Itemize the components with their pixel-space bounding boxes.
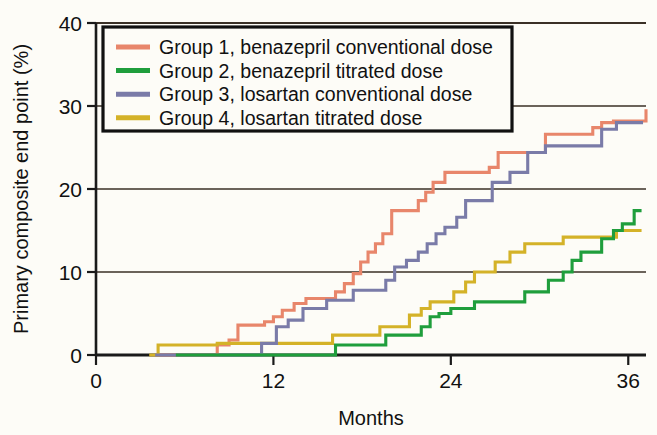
legend-label-group-2: Group 2, benazepril titrated dose <box>159 60 443 82</box>
legend-label-group-1: Group 1, benazepril conventional dose <box>159 36 493 58</box>
y-axis <box>87 23 96 355</box>
y-tick-label-30: 30 <box>59 95 82 118</box>
y-axis-title: Primary composite end point (%) <box>10 44 32 334</box>
x-tick-label-0: 0 <box>90 369 102 392</box>
y-tick-label-20: 20 <box>59 178 82 201</box>
x-tick-label-24: 24 <box>439 369 463 392</box>
data-series-group <box>149 109 646 355</box>
series-line-group-2 <box>176 211 642 355</box>
x-tick-label-36: 36 <box>617 369 640 392</box>
y-tick-label-40: 40 <box>59 12 82 35</box>
y-tick-label-0: 0 <box>70 344 82 367</box>
chart-figure: 0102030400122436 MonthsPrimary composite… <box>0 0 657 435</box>
x-tick-label-12: 12 <box>262 369 285 392</box>
plot-area: 0102030400122436 MonthsPrimary composite… <box>0 0 657 435</box>
legend-label-group-3: Group 3, losartan conventional dose <box>159 83 472 105</box>
series-line-group-3 <box>155 123 643 355</box>
x-axis-title: Months <box>338 407 404 429</box>
legend-box: Group 1, benazepril conventional doseGro… <box>103 27 512 131</box>
y-tick-label-10: 10 <box>59 261 82 284</box>
legend-label-group-4: Group 4, losartan titrated dose <box>159 107 422 129</box>
